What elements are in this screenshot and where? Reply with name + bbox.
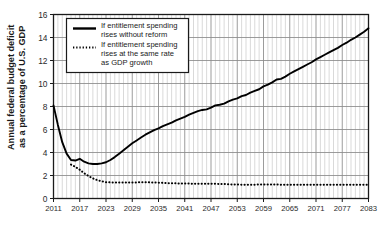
legend-item-0-line2: rises without reform	[101, 30, 167, 39]
x-axis-tick-label: 2053	[229, 204, 246, 213]
y-axis-tick-label: 12	[38, 56, 48, 66]
x-axis-tick-label: 2035	[150, 204, 167, 213]
y-axis-tick-label: 10	[38, 79, 48, 89]
x-axis-tick-label: 2071	[307, 204, 324, 213]
x-axis-tick-label: 2077	[334, 204, 351, 213]
x-axis-tick-label: 2065	[281, 204, 298, 213]
x-axis-tick-label: 2041	[176, 204, 193, 213]
y-axis-tick-label: 8	[43, 102, 48, 112]
legend-item-0-line1: If entitlement spending	[101, 21, 177, 30]
y-axis-tick-label: 4	[43, 148, 48, 158]
y-axis-title-line1: Annual federal budget deficit	[6, 25, 16, 150]
chart-container: 0246810121416 20112017202320292035204120…	[0, 0, 382, 227]
x-axis-tick-label: 2083	[360, 204, 377, 213]
y-axis-tick-label: 16	[38, 10, 48, 20]
y-axis-tick-label: 6	[43, 125, 48, 135]
y-axis-tick-label: 2	[43, 171, 48, 181]
line-chart: 0246810121416 20112017202320292035204120…	[0, 0, 382, 227]
y-axis-tick-label: 14	[38, 33, 48, 43]
x-axis-tick-label: 2011	[45, 204, 62, 213]
x-axis-tick-label: 2017	[71, 204, 88, 213]
x-axis-tick-label: 2047	[202, 204, 219, 213]
legend-item-1-line3: as GDP growth	[101, 58, 152, 67]
y-axis-tick-label: 0	[43, 194, 48, 204]
y-axis-title: Annual federal budget deficit as a perce…	[6, 25, 27, 150]
legend-item-1-line1: If entitlement spending	[101, 40, 177, 49]
y-axis-title-line2: as a percentage of U.S. GDP	[17, 26, 27, 148]
x-axis-tick-label: 2029	[124, 204, 141, 213]
chart-legend: If entitlement spending rises without re…	[67, 19, 189, 73]
x-axis-tick-label: 2059	[255, 204, 272, 213]
x-axis-tick-label: 2023	[97, 204, 114, 213]
legend-item-1-line2: rises at the same rate	[101, 49, 174, 58]
